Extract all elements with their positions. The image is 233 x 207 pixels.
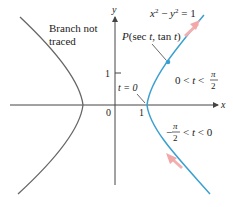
svg-text:0 < t <: 0 < t < — [175, 74, 204, 86]
hyperbola-diagram: Branch not traced y x x2 − y2 = 1 P(sec … — [0, 0, 233, 207]
interval-upper-label: 0 < t < π 2 — [175, 69, 218, 91]
svg-text:2: 2 — [211, 81, 216, 91]
svg-text:π: π — [211, 69, 216, 79]
svg-text:2: 2 — [173, 133, 178, 143]
svg-text:π: π — [173, 121, 178, 131]
origin-label: 0 — [106, 107, 111, 118]
equation-label: x2 − y2 = 1 — [149, 7, 196, 19]
svg-text:< t < 0: < t < 0 — [183, 126, 213, 138]
t-zero-label: t = 0 — [118, 82, 138, 93]
branch-not-traced-label-2: traced — [49, 35, 76, 47]
direction-arrow-upper — [185, 20, 200, 36]
branch-not-traced-label: Branch not — [49, 22, 98, 34]
interval-lower-label: − π 2 < t < 0 — [166, 121, 213, 143]
point-p — [166, 60, 171, 65]
y-axis-label: y — [111, 4, 117, 15]
svg-text:−: − — [166, 126, 172, 138]
p-leader-line — [152, 44, 166, 60]
t0-leader-line — [137, 94, 145, 103]
point-p-label: P(sec t, tan t) — [121, 30, 181, 43]
x-tick-1-label: 1 — [139, 107, 144, 118]
y-tick-1-label: 1 — [105, 68, 110, 79]
x-axis-label: x — [220, 99, 226, 110]
